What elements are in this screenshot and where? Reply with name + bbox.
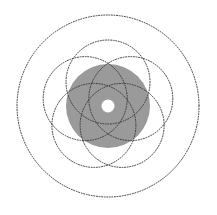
center-hole-layer (102, 100, 115, 113)
rosette-figure (0, 0, 217, 215)
figure-canvas (0, 0, 217, 215)
center-hole (102, 100, 115, 113)
